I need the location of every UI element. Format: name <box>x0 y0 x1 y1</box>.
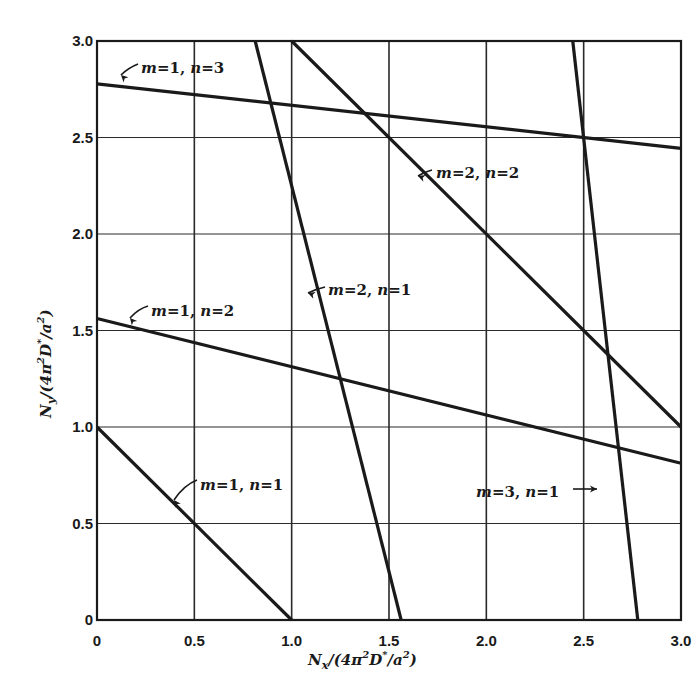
y-axis-label: Ny/(4π2D*/a2) <box>35 309 58 419</box>
arrowhead-icon <box>127 316 137 326</box>
arrow-m1-n3 <box>121 64 138 75</box>
x-tick-label: 2.0 <box>476 632 497 649</box>
label-m1-n1: m=1, n=1 <box>200 476 283 494</box>
label-m1-n2: m=1, n=2 <box>151 302 234 320</box>
x-tick-label: 0 <box>93 632 101 649</box>
y-tick-label: 3.0 <box>72 32 93 49</box>
arrowhead-icon <box>119 72 129 82</box>
label-m2-n1: m=2, n=1 <box>328 281 411 299</box>
y-tick-label: 1.5 <box>72 322 93 339</box>
arrow-m1-n2 <box>130 306 148 318</box>
x-tick-label: 3.0 <box>671 632 692 649</box>
label-m3-n1: m=3, n=1 <box>476 483 559 501</box>
x-axis-label: Nx/(4π2D*/a2) <box>307 649 417 672</box>
x-tick-label: 1.5 <box>379 632 400 649</box>
y-tick-label: 2.0 <box>72 225 93 242</box>
y-tick-label: 0 <box>85 611 93 628</box>
y-tick-label: 1.0 <box>72 418 93 435</box>
buckling-interaction-chart: 00.51.01.52.02.53.0 00.51.01.52.02.53.0 … <box>0 0 700 699</box>
y-tick-labels: 00.51.01.52.02.53.0 <box>72 32 93 628</box>
grid-lines <box>97 41 681 620</box>
y-tick-label: 0.5 <box>72 515 93 532</box>
y-tick-label: 2.5 <box>72 129 93 146</box>
x-tick-label: 2.5 <box>573 632 594 649</box>
label-m2-n2: m=2, n=2 <box>436 164 519 182</box>
x-tick-label: 1.0 <box>281 632 302 649</box>
label-m1-n3: m=1, n=3 <box>141 59 224 77</box>
chart-svg: 00.51.01.52.02.53.0 00.51.01.52.02.53.0 … <box>0 0 700 699</box>
x-tick-labels: 00.51.01.52.02.53.0 <box>93 632 692 649</box>
x-tick-label: 0.5 <box>184 632 205 649</box>
